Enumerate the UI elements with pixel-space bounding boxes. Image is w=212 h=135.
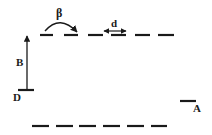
b-label: B xyxy=(16,56,24,68)
d-label: d xyxy=(111,17,117,29)
a-level-label: A xyxy=(193,102,201,114)
energy-level-diagram: β d B D A xyxy=(0,0,212,135)
d-level-label: D xyxy=(13,91,21,103)
beta-label: β xyxy=(56,6,62,20)
beta-hop-arc-icon xyxy=(45,23,77,32)
